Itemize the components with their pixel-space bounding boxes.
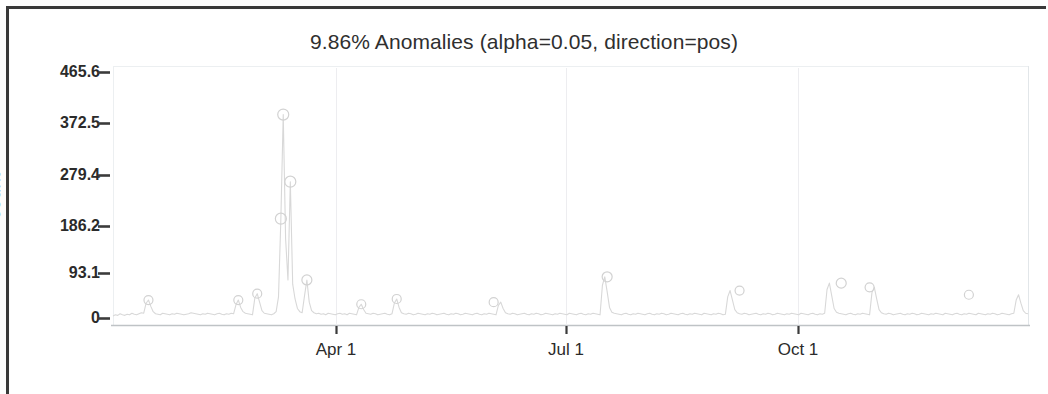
chart-plot-area — [0, 0, 1048, 394]
